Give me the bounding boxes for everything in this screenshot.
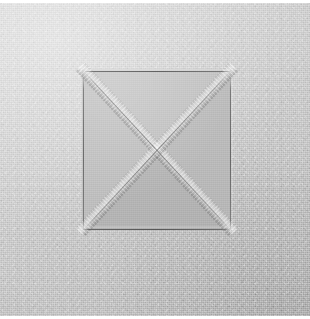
- folded-square-panel: [82, 69, 231, 230]
- photograph-frame: [0, 0, 310, 319]
- textured-paper-sheet: [0, 3, 310, 316]
- margin-strip-top: [0, 0, 310, 3]
- panel-fill: [82, 69, 231, 230]
